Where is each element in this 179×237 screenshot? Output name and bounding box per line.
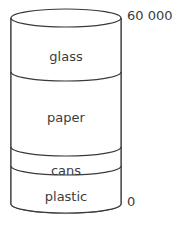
axis-tick-label-max: 60 000: [127, 9, 173, 22]
stacked-cylinder-chart: glass paper cans plastic 60 000 0: [0, 0, 179, 237]
axis-tick-label-min: 0: [127, 195, 135, 208]
segment-paper: [11, 72, 121, 156]
cylinder-graphic: [0, 0, 179, 237]
cylinder-top-cap: [11, 9, 121, 27]
